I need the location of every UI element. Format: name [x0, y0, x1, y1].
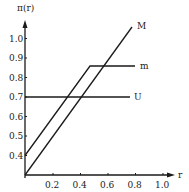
y-tick-label: 0.6	[9, 112, 24, 122]
series-M-line	[25, 27, 132, 175]
y-tick-label: 0.5	[9, 131, 24, 141]
chart: π(r) r 0.4 0.5 0.6 0.7 0.8 0.9 1.0 0.2 0…	[0, 0, 189, 192]
x-axis-arrow-icon	[167, 173, 175, 178]
series-M-label: M	[137, 21, 146, 31]
x-tick-label: 1.0	[155, 180, 170, 190]
series-m-line	[25, 66, 135, 156]
y-axis-arrow-icon	[23, 20, 28, 28]
series-m-label: m	[140, 61, 149, 71]
y-tick-label: 0.4	[9, 151, 24, 161]
x-tick-label: 0.6	[100, 180, 115, 190]
y-tick-label: 0.7	[9, 92, 24, 102]
x-axis-label: r	[178, 170, 183, 180]
y-tick-label: 1.0	[9, 34, 24, 44]
y-ticks: 0.4 0.5 0.6 0.7 0.8 0.9 1.0	[9, 34, 27, 161]
series-U-label: U	[134, 92, 142, 102]
x-tick-label: 0.4	[73, 180, 88, 190]
y-tick-label: 0.9	[9, 53, 24, 63]
x-tick-label: 0.8	[128, 180, 143, 190]
y-tick-label: 0.8	[9, 73, 24, 83]
x-tick-label: 0.2	[45, 180, 59, 190]
y-axis-label: π(r)	[17, 3, 34, 13]
